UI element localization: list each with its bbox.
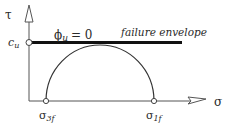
mohr-semicircle (46, 45, 154, 101)
sigma3f-label: σ3f (39, 109, 57, 123)
tau-axis-arrow-icon (25, 5, 33, 22)
sigma-axis (29, 97, 206, 104)
failure-envelope-label: failure envelope (120, 26, 207, 38)
sigma-axis-label: σ (214, 95, 222, 109)
sigma-axis-arrow-icon (188, 97, 206, 104)
sigma3f-marker (43, 98, 48, 103)
tau-axis-label: τ (5, 8, 12, 22)
sigma1f-marker (151, 98, 156, 103)
cu-label: cu (8, 36, 19, 50)
phi-u-label: ϕu= 0 (54, 28, 93, 43)
tau-axis (25, 5, 33, 101)
mohr-circle-diagram: τ σ cu ϕu= 0 failure envelope σ3f σ1f (0, 0, 236, 125)
cu-intercept-marker (26, 40, 32, 46)
sigma1f-label: σ1f (146, 109, 164, 123)
